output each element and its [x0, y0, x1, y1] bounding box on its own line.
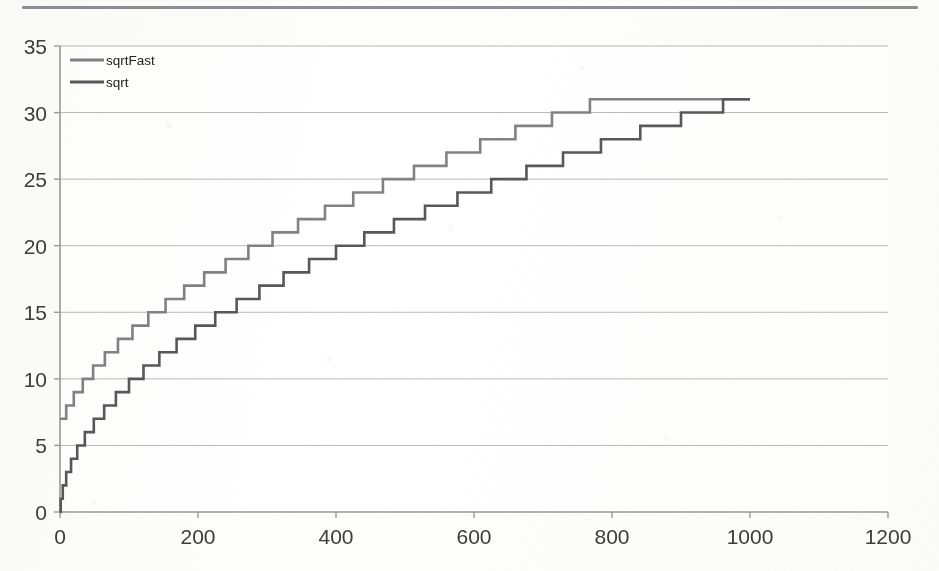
y-tick-label-10: 10: [24, 368, 47, 391]
y-tick-label-25: 25: [24, 168, 47, 191]
y-tick-marks-group: [54, 46, 60, 512]
x-tick-label-200: 200: [180, 525, 215, 548]
x-tick-marks-group: [60, 512, 888, 518]
y-tick-label-0: 0: [35, 501, 47, 524]
chart-svg: 05101520253035 020040060080010001200 sqr…: [0, 0, 939, 571]
y-tick-label-5: 5: [35, 434, 47, 457]
x-tick-label-600: 600: [456, 525, 491, 548]
chart-figure: 05101520253035 020040060080010001200 sqr…: [0, 0, 939, 571]
x-tick-labels-group: 020040060080010001200: [54, 525, 911, 548]
x-tick-label-400: 400: [318, 525, 353, 548]
x-tick-label-1000: 1000: [727, 525, 774, 548]
x-tick-label-0: 0: [54, 525, 66, 548]
y-tick-label-30: 30: [24, 102, 47, 125]
x-tick-label-1200: 1200: [865, 525, 912, 548]
y-tick-labels-group: 05101520253035: [24, 35, 47, 524]
x-tick-label-800: 800: [594, 525, 629, 548]
legend-label-sqrt: sqrt: [106, 75, 129, 90]
y-tick-label-20: 20: [24, 235, 47, 258]
y-tick-label-35: 35: [24, 35, 47, 58]
legend-label-sqrtFast: sqrtFast: [106, 53, 155, 68]
y-tick-label-15: 15: [24, 301, 47, 324]
plot-background: [60, 46, 888, 512]
